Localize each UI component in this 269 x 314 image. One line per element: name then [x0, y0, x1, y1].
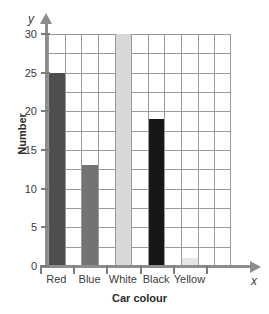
y-tick-label-30: 30 — [3, 29, 37, 40]
y-axis-title: Number — [16, 99, 28, 169]
y-tick-label-25: 25 — [3, 68, 37, 79]
x-axis-symbol: x — [251, 274, 257, 288]
bars-container — [48, 34, 231, 266]
x-tick-5 — [206, 265, 208, 274]
y-tick-25 — [41, 72, 50, 74]
y-tick-label-0: 0 — [3, 261, 37, 272]
x-axis-line — [40, 265, 252, 268]
y-axis-line — [45, 22, 48, 267]
bar-black — [149, 119, 165, 266]
y-tick-label-10: 10 — [3, 184, 37, 195]
x-tick-2 — [106, 265, 108, 274]
x-tick-0 — [40, 265, 42, 274]
bar-white — [116, 34, 132, 266]
y-axis-arrow-icon — [40, 13, 52, 24]
y-tick-20 — [41, 110, 50, 112]
plot-area — [48, 34, 231, 266]
bar-red — [49, 73, 65, 266]
bar-chart: 051015202530 RedBlueWhiteBlackYellow y x… — [0, 0, 269, 314]
bar-blue — [82, 165, 98, 266]
x-tick-3 — [140, 265, 142, 274]
y-tick-label-5: 5 — [3, 222, 37, 233]
x-axis-arrow-icon — [250, 261, 261, 273]
y-axis-symbol: y — [28, 12, 34, 26]
y-tick-5 — [41, 226, 50, 228]
x-tick-1 — [73, 265, 75, 274]
x-axis-title: Car colour — [48, 292, 231, 304]
y-tick-10 — [41, 188, 50, 190]
y-tick-0 — [41, 265, 50, 267]
x-tick-label-yellow: Yellow — [161, 274, 217, 285]
y-tick-30 — [41, 33, 50, 35]
y-tick-15 — [41, 149, 50, 151]
